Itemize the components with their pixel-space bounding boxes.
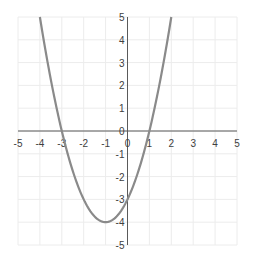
y-tick-label: 2 [119, 80, 125, 91]
x-tick-label: -2 [79, 138, 88, 149]
y-tick-label: 0 [119, 126, 125, 137]
x-tick-label: 4 [212, 138, 218, 149]
x-tick-label: -4 [35, 138, 44, 149]
y-tick-label: -2 [116, 172, 125, 183]
x-tick-label: 2 [169, 138, 175, 149]
x-tick-label: -5 [14, 138, 23, 149]
y-tick-label: -1 [116, 149, 125, 160]
y-tick-label: 5 [119, 12, 125, 23]
y-tick-label: 4 [119, 35, 125, 46]
y-tick-label: 3 [119, 58, 125, 69]
x-tick-label: 0 [125, 138, 131, 149]
y-tick-label: -4 [116, 217, 125, 228]
y-tick-label: -5 [116, 240, 125, 251]
y-tick-label: 1 [119, 103, 125, 114]
y-tick-label: -3 [116, 194, 125, 205]
x-tick-label: -1 [101, 138, 110, 149]
x-tick-label: 3 [190, 138, 196, 149]
axes [18, 17, 237, 245]
x-tick-label: 5 [234, 138, 240, 149]
parabola-chart: -5-4-3-2-1012345-5-4-3-2-1012345 [0, 0, 253, 262]
